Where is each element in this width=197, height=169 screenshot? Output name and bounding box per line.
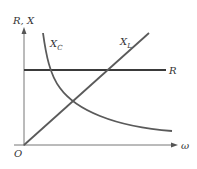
x-axis-arrow-icon xyxy=(171,143,178,148)
y-axis-arrow-icon xyxy=(22,27,27,34)
y-axis-label: R, X xyxy=(12,15,35,26)
reactance-diagram: R, X ω O R XL XC xyxy=(0,0,197,169)
xl-label: XL xyxy=(119,36,132,50)
xc-label: XC xyxy=(49,38,63,52)
r-label: R xyxy=(168,65,177,76)
origin-label: O xyxy=(14,148,22,159)
x-axis-label: ω xyxy=(181,140,189,151)
